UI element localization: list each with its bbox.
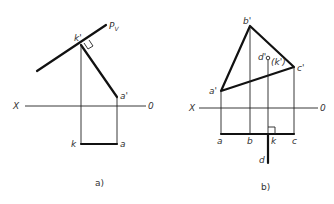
label-b: b [247, 136, 253, 146]
label-a-prime: a' [209, 86, 217, 96]
label-pv: PV [109, 21, 119, 32]
label-axis-x: X [12, 101, 20, 111]
label-k-prime: k' [74, 33, 82, 43]
line-k-prime-a-prime [81, 45, 117, 97]
label-axis-o: 0 [148, 101, 154, 111]
label-c-prime: c' [297, 63, 304, 73]
caption-a: a) [95, 178, 104, 188]
label-k: k [271, 136, 277, 146]
figure-b: b' c' a' d' (k') X 0 a b k c d b) [188, 16, 326, 192]
label-k-prime-hidden: (k') [271, 57, 286, 67]
point-d-prime [266, 56, 270, 60]
label-a-prime: a' [120, 91, 128, 101]
caption-b: b) [261, 182, 270, 192]
figure-a: PV k' a' X 0 k a a) [12, 21, 154, 188]
projection-diagram: PV k' a' X 0 k a a) b' c' a' d' (k') X 0… [0, 0, 334, 204]
label-k: k [71, 139, 77, 149]
label-axis-x: X [188, 103, 196, 113]
label-c: c [292, 136, 297, 146]
right-angle-marker [84, 40, 93, 49]
label-d: d [259, 155, 265, 165]
label-axis-o: 0 [320, 103, 326, 113]
label-a: a [120, 139, 126, 149]
plane-trace-pv-line [37, 25, 106, 71]
label-b-prime: b' [243, 16, 251, 26]
label-d-prime: d' [258, 52, 266, 62]
label-a: a [217, 136, 223, 146]
